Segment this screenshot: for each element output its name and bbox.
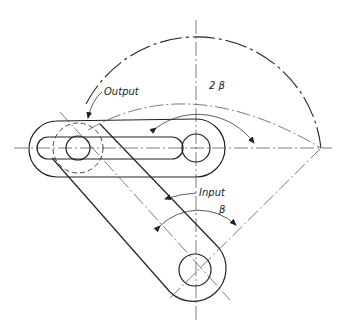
output-path-arc [88, 104, 321, 148]
input-pivot-hole [179, 254, 211, 286]
output-label: Output [104, 86, 140, 97]
input-link-centerline [60, 112, 230, 300]
input-link-end-arc [170, 248, 226, 301]
input-angle-label: β [218, 204, 226, 215]
output-angle-label: 2 β [209, 80, 226, 91]
input-alt-position-line [170, 148, 321, 298]
input-label: Input [199, 187, 226, 198]
input-link-edge-right [100, 124, 219, 248]
output-angle-arc [156, 114, 254, 143]
mechanism-diagram: 2 β Output Input β [0, 0, 343, 328]
